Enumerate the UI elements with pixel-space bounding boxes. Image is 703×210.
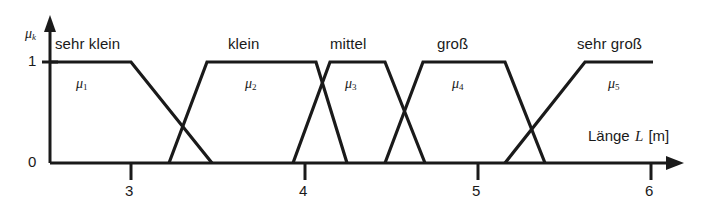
x-tick-label-3: 3 <box>125 183 133 198</box>
x-axis-title-unit: [m] <box>648 127 669 144</box>
set-label-klein: klein <box>228 36 259 51</box>
set-label-sehr-klein: sehr klein <box>55 36 120 51</box>
mu-label-5: μ5 <box>608 77 620 92</box>
x-axis-title-prefix: Länge <box>588 127 630 144</box>
x-tick-label-4: 4 <box>299 183 307 198</box>
mu-label-3: μ3 <box>345 77 357 92</box>
chart-canvas <box>0 0 703 210</box>
set-label-gross: groß <box>437 36 468 51</box>
mu-subscript-3: 3 <box>352 82 357 92</box>
x-axis-title: Länge L [m] <box>588 128 669 144</box>
y-axis-label-subscript: k <box>32 32 36 42</box>
curve-sehr-gross <box>505 62 653 163</box>
y-tick-label-0: 0 <box>28 154 36 169</box>
mu-label-1: μ1 <box>76 77 88 92</box>
x-tick-label-6: 6 <box>645 183 653 198</box>
x-tick-label-5: 5 <box>472 183 480 198</box>
set-label-sehr-gross: sehr groß <box>577 36 642 51</box>
y-axis-label: μk <box>25 27 36 42</box>
mu-symbol-4: μ <box>452 76 459 91</box>
set-label-mittel: mittel <box>330 36 366 51</box>
y-tick-label-1: 1 <box>28 53 36 68</box>
mu-subscript-2: 2 <box>252 82 257 92</box>
mu-subscript-4: 4 <box>459 82 464 92</box>
curve-klein <box>169 62 347 163</box>
mu-label-4: μ4 <box>452 77 464 92</box>
x-axis <box>50 156 684 170</box>
mu-subscript-5: 5 <box>615 82 620 92</box>
mu-symbol-2: μ <box>245 76 252 91</box>
mu-symbol-1: μ <box>76 76 83 91</box>
curve-gross <box>385 62 545 163</box>
x-axis-title-variable: L <box>634 128 644 144</box>
mu-symbol-5: μ <box>608 76 615 91</box>
fuzzy-membership-chart: μk 1 0 3 4 5 6 Länge L [m] sehr klein kl… <box>0 0 703 210</box>
mu-subscript-1: 1 <box>83 82 88 92</box>
mu-symbol-3: μ <box>345 76 352 91</box>
y-axis-label-symbol: μ <box>25 26 32 41</box>
mu-label-2: μ2 <box>245 77 257 92</box>
